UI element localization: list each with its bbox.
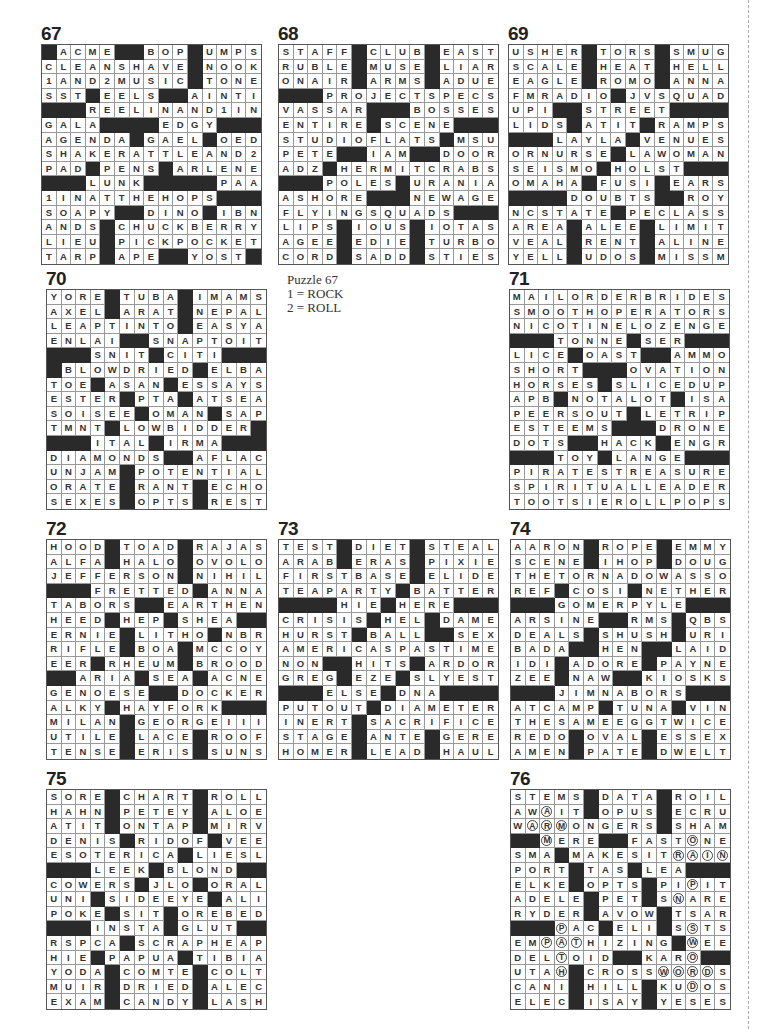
letter-cell: S	[599, 628, 614, 643]
letter-cell: A	[582, 118, 597, 133]
letter-cell: E	[454, 540, 469, 555]
letter-cell: A	[237, 465, 252, 480]
letter-cell: D	[511, 951, 526, 966]
letter-cell: P	[173, 45, 188, 60]
black-square	[598, 378, 613, 393]
black-square	[105, 790, 120, 805]
black-square	[584, 628, 599, 643]
letter-cell: S	[714, 290, 729, 305]
letter-cell: S	[425, 133, 440, 148]
letter-cell: E	[657, 584, 672, 599]
letter-cell: G	[144, 133, 159, 148]
letter-cell: D	[232, 147, 247, 162]
letter-cell: I	[599, 980, 614, 995]
black-square	[47, 584, 62, 599]
letter-cell: E	[511, 878, 526, 893]
letter-cell: A	[454, 162, 469, 177]
letter-cell: L	[626, 147, 641, 162]
letter-cell: I	[454, 569, 469, 584]
letter-cell: E	[237, 686, 252, 701]
letter-cell: A	[57, 162, 72, 177]
letter-cell: E	[135, 686, 150, 701]
letter-cell: N	[193, 569, 208, 584]
letter-cell: A	[627, 451, 642, 466]
letter-cell: A	[396, 133, 411, 148]
black-square	[701, 598, 716, 613]
letter-cell: E	[613, 819, 628, 834]
black-square	[628, 863, 643, 878]
letter-cell: O	[469, 147, 484, 162]
letter-cell: E	[237, 980, 252, 995]
letter-cell: T	[47, 421, 62, 436]
letter-cell: E	[251, 834, 266, 849]
letter-cell: A	[553, 220, 568, 235]
letter-cell: O	[627, 363, 642, 378]
letter-cell: O	[149, 465, 164, 480]
letter-cell: A	[115, 133, 130, 148]
letter-cell: N	[509, 206, 524, 221]
letter-cell: U	[684, 89, 699, 104]
letter-cell: T	[246, 235, 261, 250]
letter-cell: M	[555, 790, 570, 805]
letter-cell: R	[554, 407, 569, 422]
letter-cell: O	[193, 628, 208, 643]
letter-cell: S	[568, 494, 583, 509]
letter-cell: H	[396, 598, 411, 613]
letter-cell: E	[440, 598, 455, 613]
black-square	[567, 235, 582, 250]
letter-cell: E	[222, 848, 237, 863]
letter-cell: S	[323, 613, 338, 628]
black-square	[569, 878, 584, 893]
letter-cell: K	[599, 848, 614, 863]
letter-cell: O	[91, 598, 106, 613]
letter-cell: R	[381, 74, 396, 89]
letter-cell: N	[294, 715, 309, 730]
letter-cell: N	[672, 892, 687, 907]
letter-cell: E	[62, 834, 77, 849]
letter-cell: S	[381, 642, 396, 657]
letter-cell: I	[671, 290, 686, 305]
letter-cell: S	[352, 686, 367, 701]
letter-cell: O	[149, 407, 164, 422]
black-square	[469, 118, 484, 133]
letter-cell: A	[203, 147, 218, 162]
letter-cell: T	[294, 730, 309, 745]
letter-cell: R	[700, 305, 715, 320]
letter-cell: R	[540, 540, 555, 555]
letter-cell: S	[396, 657, 411, 672]
letter-cell: S	[308, 103, 323, 118]
letter-cell: Y	[178, 805, 193, 820]
black-square	[569, 863, 584, 878]
letter-cell: H	[584, 936, 599, 951]
letter-cell: N	[555, 555, 570, 570]
letter-cell: E	[47, 334, 62, 349]
black-square	[555, 657, 570, 672]
letter-cell: T	[440, 540, 455, 555]
black-square	[105, 555, 120, 570]
letter-cell: S	[699, 249, 714, 264]
black-square	[193, 494, 208, 509]
letter-cell: A	[657, 951, 672, 966]
letter-cell: E	[640, 103, 655, 118]
letter-cell: V	[640, 133, 655, 148]
puzzle-number: 73	[278, 519, 499, 539]
letter-cell: A	[538, 235, 553, 250]
letter-cell: E	[164, 805, 179, 820]
black-square	[700, 451, 715, 466]
black-square	[540, 921, 555, 936]
letter-cell: E	[367, 686, 382, 701]
letter-cell: I	[555, 980, 570, 995]
circled-letter: T	[556, 952, 567, 963]
letter-cell: S	[323, 569, 338, 584]
letter-cell: A	[86, 118, 101, 133]
black-square	[149, 436, 164, 451]
letter-cell: P	[86, 206, 101, 221]
letter-cell: O	[57, 206, 72, 221]
letter-cell: U	[628, 628, 643, 643]
letter-cell: E	[714, 421, 729, 436]
letter-cell: O	[62, 378, 77, 393]
letter-cell: M	[91, 994, 106, 1009]
letter-cell: R	[337, 118, 352, 133]
letter-cell: E	[337, 730, 352, 745]
letter-cell: Y	[178, 994, 193, 1009]
